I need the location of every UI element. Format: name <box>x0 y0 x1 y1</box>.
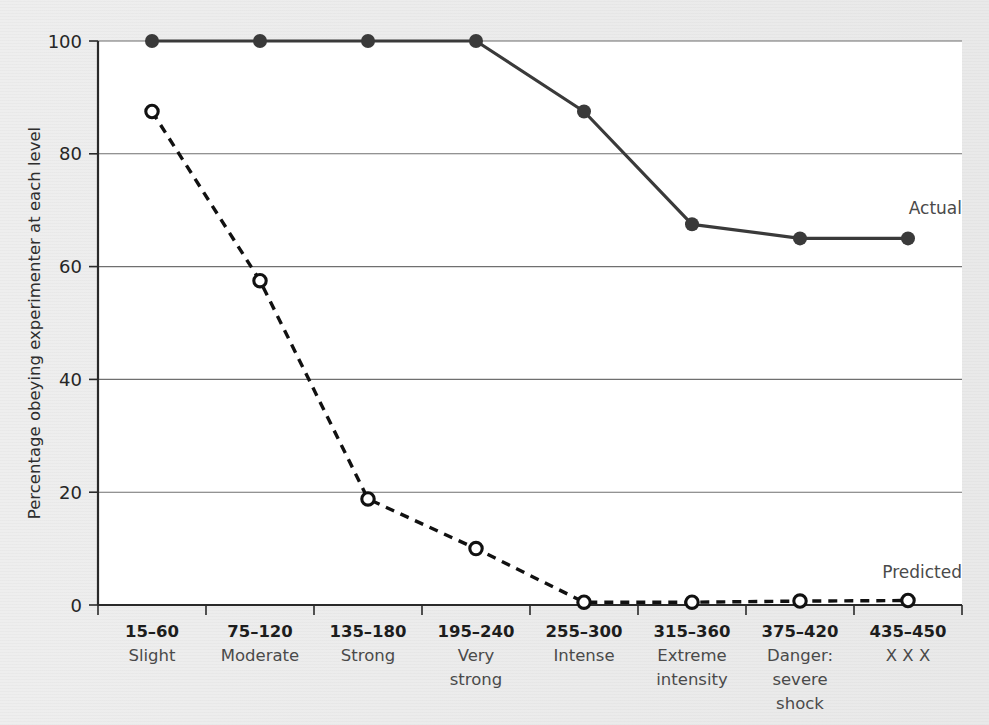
predicted-series-label: Predicted <box>882 562 962 582</box>
x-category-labels: 15–60Slight75–120Moderate135–180Strong19… <box>125 622 947 713</box>
chart-canvas: 020406080100 Percentage obeying experime… <box>0 0 989 725</box>
x-category-name: X X X <box>886 646 930 665</box>
x-category-name: Danger: <box>767 646 833 665</box>
x-category-name: shock <box>776 694 824 713</box>
x-axis-ticks <box>98 605 962 615</box>
x-category-name: strong <box>450 670 503 689</box>
x-category-range: 375–420 <box>761 622 838 641</box>
actual-data-point <box>901 231 915 245</box>
x-category-name: Intense <box>553 646 614 665</box>
actual-data-point <box>469 34 483 48</box>
actual-series-label: Actual <box>909 198 962 218</box>
predicted-data-point <box>254 275 266 287</box>
y-axis-title: Percentage obeying experimenter at each … <box>25 127 44 519</box>
obedience-line-chart-figure: 020406080100 Percentage obeying experime… <box>0 0 989 725</box>
x-category-name: severe <box>772 670 827 689</box>
y-tick-label-40: 40 <box>59 369 82 390</box>
x-category-name: Very <box>458 646 495 665</box>
y-tick-label-60: 60 <box>59 256 82 277</box>
x-category-range: 75–120 <box>227 622 293 641</box>
actual-data-point <box>361 34 375 48</box>
actual-data-point <box>577 105 591 119</box>
x-category-name: Moderate <box>221 646 299 665</box>
actual-data-point <box>793 231 807 245</box>
x-category-name: Strong <box>341 646 395 665</box>
predicted-data-point <box>146 105 158 117</box>
predicted-data-point <box>470 542 482 554</box>
y-tick-label-0: 0 <box>71 595 82 616</box>
x-category-name: intensity <box>656 670 728 689</box>
x-category-range: 195–240 <box>437 622 514 641</box>
x-category-range: 255–300 <box>545 622 622 641</box>
x-category-range: 315–360 <box>653 622 730 641</box>
y-tick-label-100: 100 <box>48 31 82 52</box>
y-tick-label-20: 20 <box>59 482 82 503</box>
predicted-data-point <box>362 493 374 505</box>
y-tick-labels: 020406080100 <box>48 31 82 616</box>
x-category-range: 15–60 <box>125 622 179 641</box>
predicted-data-point <box>794 595 806 607</box>
x-category-range: 135–180 <box>329 622 406 641</box>
actual-data-point <box>253 34 267 48</box>
actual-data-point <box>685 217 699 231</box>
predicted-data-point <box>902 594 914 606</box>
predicted-data-point <box>686 596 698 608</box>
x-category-name: Extreme <box>657 646 726 665</box>
x-category-range: 435–450 <box>869 622 946 641</box>
plot-area-background <box>98 41 962 605</box>
actual-data-point <box>145 34 159 48</box>
predicted-data-point <box>578 596 590 608</box>
x-category-name: Slight <box>128 646 176 665</box>
y-tick-label-80: 80 <box>59 143 82 164</box>
